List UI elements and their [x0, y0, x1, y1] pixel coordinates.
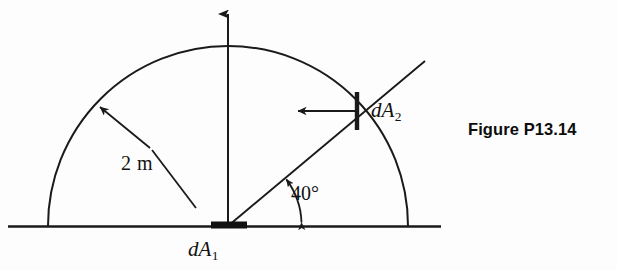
label-dA1-text: dA — [188, 237, 211, 261]
label-radius: 2 m — [121, 152, 153, 175]
figure-container: dA1 dA2 2 m 40° Figure P13.14 — [0, 0, 617, 270]
label-dA2-text: dA — [371, 98, 394, 122]
figure-caption: Figure P13.14 — [468, 120, 577, 139]
radius-leader-arrow — [100, 107, 150, 148]
label-dA1-subscript: 1 — [211, 248, 218, 263]
dA1-element — [211, 222, 247, 229]
label-dA2: dA2 — [371, 98, 402, 125]
radial-line-40deg — [228, 61, 425, 226]
label-angle: 40° — [291, 182, 319, 205]
radius-leader-lower — [152, 150, 196, 208]
label-dA2-subscript: 2 — [394, 109, 401, 124]
label-dA1: dA1 — [188, 237, 219, 264]
